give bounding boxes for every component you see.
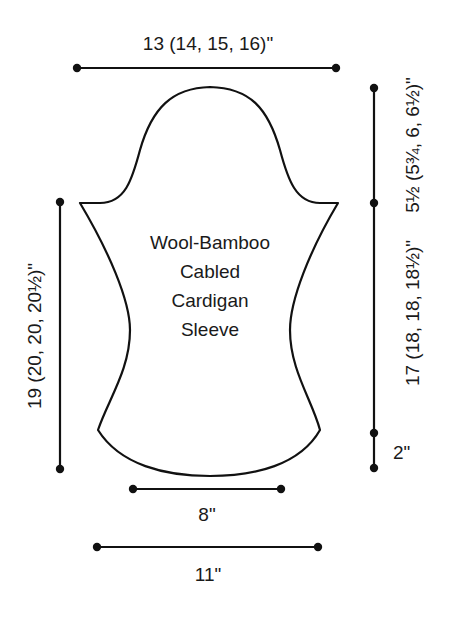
- waist-width-dimension: 8": [129, 485, 285, 525]
- bottom-width-dimension: 11": [93, 543, 322, 585]
- top-width-dimension: 13 (14, 15, 16)": [73, 33, 340, 72]
- cuff-height-label: 2": [393, 442, 410, 463]
- total-length-label: 19 (20, 20, 20½)": [24, 263, 45, 409]
- sleeve-schematic: 13 (14, 15, 16)" 5½ (5¾, 6, 6½)" 17 (18,…: [0, 0, 449, 620]
- right-vertical-dimension: 5½ (5¾, 6, 6½)" 17 (18, 18, 18½)" 2": [370, 77, 423, 472]
- sleeve-length-label: 17 (18, 18, 18½)": [402, 240, 423, 386]
- title-line-2: Cabled: [180, 261, 240, 282]
- waist-width-label: 8": [198, 504, 215, 525]
- cap-height-label: 5½ (5¾, 6, 6½)": [402, 77, 423, 213]
- title-line-4: Sleeve: [181, 319, 239, 340]
- title-line-1: Wool-Bamboo: [150, 232, 270, 253]
- top-width-label: 13 (14, 15, 16)": [143, 33, 273, 54]
- title-line-3: Cardigan: [171, 290, 248, 311]
- bottom-width-label: 11": [195, 564, 221, 585]
- left-vertical-dimension: 19 (20, 20, 20½)": [24, 198, 64, 473]
